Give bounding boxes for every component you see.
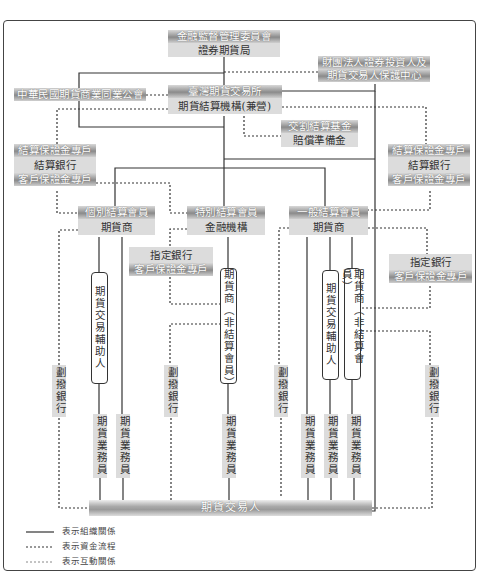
designated-bank-right-title: 指定銀行	[389, 254, 472, 270]
settlement-fund-box: 交割結算基金 賠償準備金	[281, 120, 358, 147]
designated-bank-right-account: 客戶保證金專戶	[389, 270, 472, 283]
right-clearing-bank: 結算銀行	[388, 157, 470, 173]
legend-solid: 表示組織關係	[26, 526, 116, 536]
salesperson-4: 期貨業務員	[301, 414, 315, 478]
right-clearing-bank-stack: 結算保證金專戶 結算銀行 客戶保證金專戶	[388, 144, 470, 186]
legend-dotted-dark: 表示資金流程	[26, 541, 116, 551]
investor-protection-line2: 期貨交易人保護中心	[318, 69, 430, 82]
designated-bank-left-account: 客戶保證金專戶	[129, 263, 213, 276]
regulator-title: 金融監督管理委員會	[168, 30, 280, 43]
general-clearing-member-title: 一般結算會員	[289, 206, 368, 219]
dotted-line-light-icon	[26, 559, 54, 565]
salesperson-3: 期貨業務員	[222, 414, 236, 478]
designated-bank-right-box: 指定銀行 客戶保證金專戶	[389, 254, 472, 283]
salesperson-5: 期貨業務員	[324, 414, 338, 478]
non-clearing-fcm-right: 期貨商（非結算會員）	[344, 268, 361, 380]
transfer-bank-1: 劃撥銀行	[52, 365, 66, 417]
legend-dotted-light: 表示互動關係	[26, 556, 116, 566]
legend-dotted-light-label: 表示互動關係	[62, 556, 116, 566]
exchange-title: 臺灣期貨交易所	[168, 85, 282, 98]
individual-clearing-member-box: 個別結算會員 期貨商	[78, 206, 155, 235]
designated-bank-left-box: 指定銀行 客戶保證金專戶	[129, 247, 213, 276]
left-customer-margin-account: 客戶保證金專戶	[14, 173, 96, 186]
association-label: 中華民國期貨商業同業公會	[14, 88, 146, 101]
dotted-line-dark-icon	[26, 544, 54, 550]
legend-solid-label: 表示組織關係	[62, 526, 116, 536]
special-clearing-member-sub: 金融機構	[187, 219, 265, 235]
non-clearing-fcm-mid: 期貨商（非結算會員）	[220, 268, 237, 384]
general-clearing-member-sub: 期貨商	[289, 219, 368, 235]
association-box: 中華民國期貨商業同業公會	[14, 88, 146, 101]
general-clearing-member-box: 一般結算會員 期貨商	[289, 206, 368, 235]
special-clearing-member-title: 特別結算會員	[187, 206, 265, 219]
introducing-broker-right: 期貨交易輔助人	[322, 270, 339, 380]
special-clearing-member-box: 特別結算會員 金融機構	[187, 206, 265, 235]
investor-protection-box: 財團法人證券投資人及 期貨交易人保護中心	[318, 56, 430, 82]
transfer-bank-2: 劃撥銀行	[164, 365, 178, 417]
left-clearing-margin-account: 結算保證金專戶	[14, 144, 96, 157]
settlement-fund-title: 交割結算基金	[281, 120, 358, 133]
transfer-bank-3: 劃撥銀行	[274, 365, 288, 417]
regulator-box: 金融監督管理委員會 證券期貨局	[168, 30, 280, 57]
introducing-broker-left: 期貨交易輔助人	[91, 272, 108, 384]
regulator-subtitle: 證券期貨局	[168, 43, 280, 57]
left-clearing-bank-stack: 結算保證金專戶 結算銀行 客戶保證金專戶	[14, 144, 96, 186]
designated-bank-left-title: 指定銀行	[129, 247, 213, 263]
investor-protection-line1: 財團法人證券投資人及	[318, 56, 430, 69]
individual-clearing-member-title: 個別結算會員	[78, 206, 155, 219]
exchange-box: 臺灣期貨交易所 期貨結算機構(兼營)	[168, 85, 282, 114]
salesperson-1: 期貨業務員	[93, 414, 107, 478]
exchange-subtitle: 期貨結算機構(兼營)	[168, 98, 282, 114]
salesperson-2: 期貨業務員	[116, 414, 130, 478]
settlement-fund-subtitle: 賠償準備金	[281, 133, 358, 147]
left-clearing-bank: 結算銀行	[14, 157, 96, 173]
right-customer-margin-account: 客戶保證金專戶	[388, 173, 470, 186]
right-clearing-margin-account: 結算保證金專戶	[388, 144, 470, 157]
solid-line-icon	[26, 529, 54, 535]
individual-clearing-member-sub: 期貨商	[78, 219, 155, 235]
salesperson-6: 期貨業務員	[347, 414, 361, 478]
legend-dotted-dark-label: 表示資金流程	[62, 541, 116, 551]
futures-traders-bar: 期貨交易人	[89, 500, 372, 516]
transfer-bank-4: 劃撥銀行	[425, 365, 439, 417]
